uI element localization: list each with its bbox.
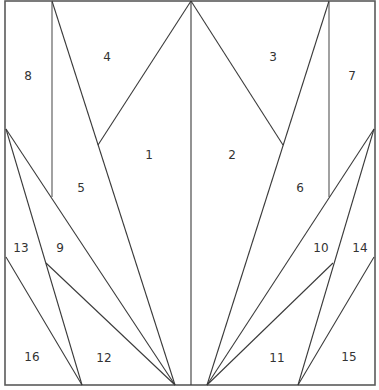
piece-label-3: 3 — [269, 50, 277, 64]
pattern-diagram — [0, 0, 379, 390]
piece-label-16: 16 — [24, 350, 39, 364]
piece-label-9: 9 — [56, 241, 64, 255]
piece-label-5: 5 — [77, 181, 85, 195]
piece-label-15: 15 — [341, 350, 356, 364]
piece-label-1: 1 — [145, 148, 153, 162]
piece-label-7: 7 — [348, 69, 356, 83]
piece-label-2: 2 — [228, 148, 236, 162]
piece-label-14: 14 — [352, 241, 367, 255]
piece-label-4: 4 — [103, 50, 111, 64]
piece-label-11: 11 — [269, 351, 284, 365]
piece-label-10: 10 — [313, 241, 328, 255]
outer-frame — [5, 1, 375, 385]
piece-label-13: 13 — [13, 241, 28, 255]
piece-label-8: 8 — [24, 69, 32, 83]
piece-label-6: 6 — [296, 181, 304, 195]
piece-label-12: 12 — [96, 351, 111, 365]
